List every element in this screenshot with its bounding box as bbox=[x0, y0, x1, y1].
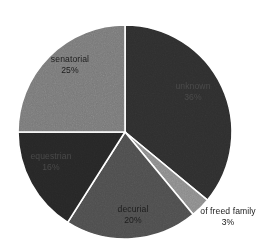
pie-label-decurial: decurial 20% bbox=[100, 204, 166, 225]
pie-label-of-freed-family-value: 3% bbox=[190, 217, 266, 228]
pie-label-senatorial-value: 25% bbox=[34, 65, 106, 76]
pie-label-equestrian: equestrian 16% bbox=[18, 151, 84, 172]
pie-label-senatorial: senatorial 25% bbox=[34, 54, 106, 75]
pie-label-decurial-value: 20% bbox=[100, 215, 166, 226]
pie-label-equestrian-value: 16% bbox=[18, 162, 84, 173]
pie-label-decurial-name: decurial bbox=[100, 204, 166, 215]
pie-label-senatorial-name: senatorial bbox=[34, 54, 106, 65]
pie-label-unknown-name: unknown bbox=[162, 81, 224, 92]
pie-label-of-freed-family-name: of freed family bbox=[190, 206, 266, 217]
pie-label-of-freed-family: of freed family 3% bbox=[190, 206, 266, 227]
pie-slice-senatorial[interactable] bbox=[18, 25, 125, 132]
pie-label-equestrian-name: equestrian bbox=[18, 151, 84, 162]
pie-label-unknown-value: 36% bbox=[162, 92, 224, 103]
pie-chart-figure: senatorial 25% unknown 36% equestrian 16… bbox=[0, 0, 268, 250]
pie-label-unknown: unknown 36% bbox=[162, 81, 224, 102]
